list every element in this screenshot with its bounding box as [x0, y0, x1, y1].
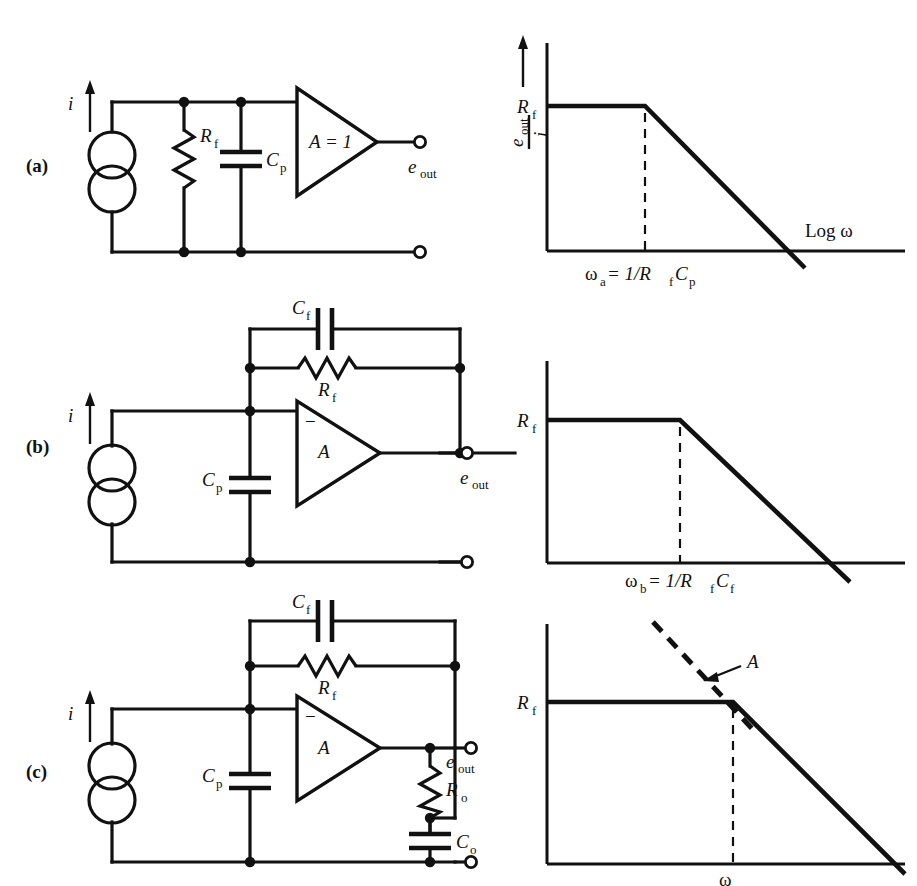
- current-label-b: i: [68, 405, 73, 426]
- capacitor-cp-label-c: C: [202, 765, 215, 786]
- plot-b: R f ω b = 1/R f C f: [505, 351, 917, 586]
- amplifier-label-a: A = 1: [307, 131, 352, 152]
- amplifier-input-sign-c: −: [305, 706, 316, 727]
- current-arrow-a: [85, 80, 95, 132]
- amplifier-label-b: A: [316, 441, 330, 462]
- figure-row-b: (b) C f R f: [0, 296, 917, 596]
- breakpoint-expr-sub1: f: [669, 274, 674, 289]
- current-label-a: i: [68, 93, 73, 114]
- node-dot: [425, 857, 435, 867]
- node-dot: [179, 97, 189, 107]
- current-source-b: [89, 445, 135, 525]
- breakpoint-omega-sub: b: [640, 581, 647, 596]
- breakpoint-omega: ω: [585, 263, 598, 284]
- node-dot: [245, 406, 255, 416]
- plot-a: e out i R f Log ω ω a = 1/: [505, 25, 917, 290]
- yaxis-numerator: e: [506, 139, 527, 147]
- current-source-c: [89, 743, 135, 823]
- capacitor-cp-sub-b: p: [216, 480, 223, 495]
- node-dot: [236, 97, 246, 107]
- plot-c-level-label: R: [516, 692, 529, 713]
- breakpoint-expr-mid: C: [716, 570, 729, 591]
- resistor-rf-sub-a: f: [214, 136, 219, 151]
- capacitor-cp-sub-a: p: [280, 160, 287, 175]
- output-label-sub-a: out: [420, 166, 437, 181]
- capacitor-cf-label-c: C: [292, 591, 305, 612]
- breakpoint-expr: = 1/R: [607, 263, 651, 284]
- plot-c-breakpoint-label: ω c: [719, 869, 740, 886]
- circuit-diagram-c: C f R f: [60, 596, 500, 886]
- capacitor-cf-sub-c: f: [306, 602, 311, 617]
- open-loop-asymptote-c: [653, 622, 757, 734]
- circuit-c-terminals: [440, 596, 500, 886]
- breakpoint-expr: = 1/R: [648, 570, 692, 591]
- node-dot: [245, 557, 255, 567]
- breakpoint-expr-sub2: f: [730, 581, 735, 596]
- output-terminal-top-c: [465, 742, 476, 753]
- plot-a-xaxis-label: Log ω: [805, 220, 853, 241]
- open-loop-label-c: A: [745, 651, 759, 672]
- capacitor-cf-label-b: C: [292, 297, 305, 318]
- plot-b-level-sub: f: [532, 421, 537, 436]
- amplifier-label-c: A: [316, 737, 330, 758]
- plot-a-yaxis-arrow: [518, 35, 528, 87]
- resistor-rf-label-b: R: [317, 379, 330, 400]
- current-arrow-c: [85, 690, 95, 742]
- breakpoint-expr-mid: C: [675, 263, 688, 284]
- node-dot: [236, 247, 246, 257]
- node-dot: [245, 704, 255, 714]
- output-terminal-bottom-c: [465, 856, 476, 867]
- breakpoint-omega-sub: a: [600, 274, 606, 289]
- breakpoint-omega: ω: [719, 869, 732, 886]
- resistor-rf-sub-c: f: [332, 688, 337, 703]
- amplifier-input-sign-b: −: [305, 411, 316, 432]
- panel-label-b: (b): [26, 436, 49, 458]
- panel-label-a: (a): [26, 155, 48, 177]
- figure-row-c: (c) C f R f: [0, 596, 917, 886]
- capacitor-cf-c: [250, 600, 455, 666]
- open-loop-annotation-arrow-c: [703, 666, 741, 682]
- plot-a-level-sub: f: [532, 107, 537, 122]
- resistor-rf-label-c: R: [317, 677, 330, 698]
- yaxis-denominator: i: [530, 132, 551, 137]
- circuit-diagram-a: i R f C p: [60, 70, 480, 290]
- capacitor-cp-label-a: C: [266, 149, 279, 170]
- output-terminal-top-b: [461, 447, 472, 458]
- node-dot: [179, 247, 189, 257]
- current-source-a: [89, 132, 135, 212]
- capacitor-cp-a: [220, 102, 262, 252]
- plot-a-level-label: R: [516, 96, 529, 117]
- amplifier-c: [297, 696, 430, 801]
- capacitor-cf-sub-b: f: [306, 308, 311, 323]
- node-dot: [245, 857, 255, 867]
- plot-a-yaxis-label: e out i: [506, 115, 551, 149]
- capacitor-cf-b: [250, 308, 460, 368]
- panel-label-c: (c): [26, 761, 47, 783]
- resistor-rf-label-a: R: [199, 125, 212, 146]
- current-label-c: i: [68, 703, 73, 724]
- breakpoint-omega: ω: [625, 570, 638, 591]
- capacitor-cp-sub-c: p: [216, 776, 223, 791]
- plot-c: R f A ω c: [505, 616, 917, 882]
- capacitor-cp-label-b: C: [202, 469, 215, 490]
- figure-container: (a) i: [0, 0, 917, 886]
- capacitor-cp-b: [229, 411, 271, 562]
- output-terminal-bottom-b: [461, 556, 472, 567]
- plot-b-level-label: R: [516, 410, 529, 431]
- output-label-a: e: [408, 156, 416, 177]
- circuit-b-terminals: [440, 296, 500, 586]
- breakpoint-expr-sub1: f: [710, 581, 715, 596]
- output-terminal-bottom-a: [414, 246, 425, 257]
- output-terminal-top-a: [414, 136, 425, 147]
- current-arrow-b: [85, 392, 95, 444]
- plot-b-breakpoint-label: ω b = 1/R f C f: [625, 570, 735, 596]
- plot-c-level-sub: f: [532, 703, 537, 718]
- circuit-diagram-b: C f R f: [60, 296, 490, 586]
- breakpoint-expr-sub2: p: [689, 274, 696, 289]
- resistor-rf-c: [250, 656, 455, 676]
- breakpoint-omega-sub: c: [734, 880, 740, 886]
- resistor-rf-a: [174, 102, 194, 252]
- resistor-rf-sub-b: f: [332, 390, 337, 405]
- resistor-rf-b: [250, 358, 460, 378]
- plot-a-breakpoint-label: ω a = 1/R f C p: [585, 263, 696, 289]
